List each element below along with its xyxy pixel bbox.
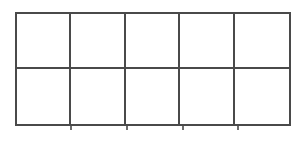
grid-cell[interactable] [71, 69, 125, 124]
grid-cell[interactable] [126, 69, 180, 124]
ten-frame-grid [15, 12, 291, 126]
grid-cell[interactable] [126, 14, 180, 69]
grid-cell[interactable] [71, 14, 125, 69]
grid-cell[interactable] [17, 69, 71, 124]
grid-cell[interactable] [180, 69, 234, 124]
figure-canvas [0, 0, 306, 143]
grid-rule-overshoot-tick [182, 126, 184, 130]
grid-cell[interactable] [235, 69, 289, 124]
grid-rule-overshoot-tick [70, 126, 72, 130]
grid-cell[interactable] [180, 14, 234, 69]
grid-cell[interactable] [235, 14, 289, 69]
grid-rule-overshoot-tick [237, 126, 239, 130]
grid-rule-overshoot-tick [126, 126, 128, 130]
grid-cell[interactable] [17, 14, 71, 69]
